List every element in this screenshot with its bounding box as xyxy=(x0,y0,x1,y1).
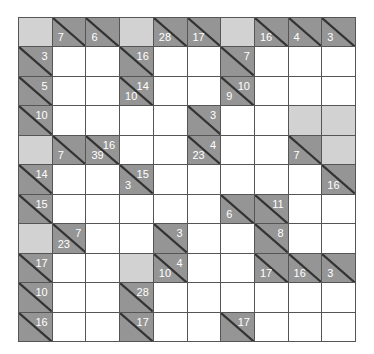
blocked-cell xyxy=(120,254,153,282)
clue-cell: 4 xyxy=(289,18,322,46)
clue-cell: 1639 xyxy=(86,136,119,164)
entry-cell[interactable] xyxy=(289,313,322,341)
clue-cell: 423 xyxy=(188,136,221,164)
entry-cell[interactable] xyxy=(53,195,86,223)
entry-cell[interactable] xyxy=(154,195,187,223)
across-clue-sum: 3 xyxy=(42,51,48,62)
across-clue-sum: 4 xyxy=(210,140,216,151)
entry-cell[interactable] xyxy=(53,283,86,311)
entry-cell[interactable] xyxy=(188,224,221,252)
entry-cell[interactable] xyxy=(188,47,221,75)
clue-cell: 5 xyxy=(19,77,52,105)
across-clue-sum: 16 xyxy=(137,51,149,62)
entry-cell[interactable] xyxy=(188,254,221,282)
entry-cell[interactable] xyxy=(255,136,288,164)
entry-cell[interactable] xyxy=(86,283,119,311)
entry-cell[interactable] xyxy=(53,106,86,134)
clue-cell: 3 xyxy=(188,106,221,134)
entry-cell[interactable] xyxy=(255,283,288,311)
entry-cell[interactable] xyxy=(154,106,187,134)
down-clue-sum: 7 xyxy=(58,32,64,43)
clue-cell: 10 xyxy=(19,106,52,134)
entry-cell[interactable] xyxy=(188,77,221,105)
entry-cell[interactable] xyxy=(53,254,86,282)
across-clue-sum: 7 xyxy=(244,51,250,62)
entry-cell[interactable] xyxy=(154,313,187,341)
entry-cell[interactable] xyxy=(86,254,119,282)
entry-cell[interactable] xyxy=(322,283,355,311)
entry-cell[interactable] xyxy=(289,77,322,105)
entry-cell[interactable] xyxy=(322,195,355,223)
clue-cell: 17 xyxy=(19,254,52,282)
entry-cell[interactable] xyxy=(289,283,322,311)
entry-cell[interactable] xyxy=(188,283,221,311)
entry-cell[interactable] xyxy=(120,106,153,134)
blocked-cell xyxy=(221,18,254,46)
entry-cell[interactable] xyxy=(154,283,187,311)
across-clue-sum: 10 xyxy=(35,287,47,298)
entry-cell[interactable] xyxy=(221,283,254,311)
entry-cell[interactable] xyxy=(255,106,288,134)
across-clue-sum: 10 xyxy=(35,110,47,121)
across-clue-sum: 11 xyxy=(272,199,283,210)
entry-cell[interactable] xyxy=(221,136,254,164)
entry-cell[interactable] xyxy=(86,47,119,75)
entry-cell[interactable] xyxy=(120,195,153,223)
kakuro-board: 7628171643316751410109103716394237141531… xyxy=(18,17,356,342)
entry-cell[interactable] xyxy=(86,313,119,341)
entry-cell[interactable] xyxy=(53,77,86,105)
entry-cell[interactable] xyxy=(188,165,221,193)
entry-cell[interactable] xyxy=(255,313,288,341)
entry-cell[interactable] xyxy=(255,77,288,105)
across-clue-sum: 8 xyxy=(277,228,283,239)
entry-cell[interactable] xyxy=(188,195,221,223)
clue-cell: 14 xyxy=(19,165,52,193)
entry-cell[interactable] xyxy=(154,165,187,193)
clue-cell: 16 xyxy=(289,254,322,282)
entry-cell[interactable] xyxy=(322,47,355,75)
across-clue-sum: 16 xyxy=(103,140,115,151)
entry-cell[interactable] xyxy=(221,165,254,193)
entry-cell[interactable] xyxy=(120,136,153,164)
entry-cell[interactable] xyxy=(154,47,187,75)
clue-cell: 7 xyxy=(53,136,86,164)
entry-cell[interactable] xyxy=(221,224,254,252)
entry-cell[interactable] xyxy=(289,195,322,223)
down-clue-sum: 16 xyxy=(327,180,339,191)
blocked-cell xyxy=(289,106,322,134)
entry-cell[interactable] xyxy=(188,313,221,341)
across-clue-sum: 7 xyxy=(75,228,81,239)
entry-cell[interactable] xyxy=(120,224,153,252)
entry-cell[interactable] xyxy=(255,165,288,193)
entry-cell[interactable] xyxy=(154,136,187,164)
entry-cell[interactable] xyxy=(53,47,86,75)
clue-cell: 8 xyxy=(255,224,288,252)
down-clue-sum: 4 xyxy=(294,32,300,43)
down-clue-sum: 10 xyxy=(159,268,171,279)
across-clue-sum: 28 xyxy=(137,287,149,298)
across-clue-sum: 17 xyxy=(35,258,47,269)
entry-cell[interactable] xyxy=(86,106,119,134)
entry-cell[interactable] xyxy=(322,224,355,252)
entry-cell[interactable] xyxy=(53,165,86,193)
entry-cell[interactable] xyxy=(86,165,119,193)
clue-cell: 3 xyxy=(322,18,355,46)
entry-cell[interactable] xyxy=(322,77,355,105)
down-clue-sum: 9 xyxy=(226,91,232,102)
entry-cell[interactable] xyxy=(154,77,187,105)
entry-cell[interactable] xyxy=(221,254,254,282)
down-clue-sum: 16 xyxy=(260,32,272,43)
entry-cell[interactable] xyxy=(255,47,288,75)
entry-cell[interactable] xyxy=(221,106,254,134)
entry-cell[interactable] xyxy=(86,77,119,105)
entry-cell[interactable] xyxy=(86,224,119,252)
across-clue-sum: 15 xyxy=(35,199,47,210)
entry-cell[interactable] xyxy=(289,224,322,252)
entry-cell[interactable] xyxy=(86,195,119,223)
entry-cell[interactable] xyxy=(289,165,322,193)
entry-cell[interactable] xyxy=(289,47,322,75)
entry-cell[interactable] xyxy=(322,313,355,341)
entry-cell[interactable] xyxy=(53,313,86,341)
blocked-cell xyxy=(19,18,52,46)
blocked-cell xyxy=(120,18,153,46)
